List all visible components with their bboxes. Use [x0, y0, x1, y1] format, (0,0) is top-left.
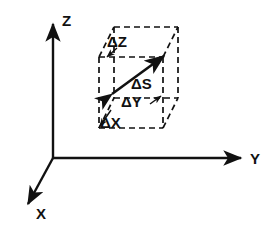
x-axis-line [28, 158, 53, 204]
cube-edge-depth-br [163, 98, 178, 128]
delta-x-label: ΔX [100, 114, 121, 131]
diagram-canvas: Z Y X ΔZ ΔS ΔY ΔX [0, 0, 271, 234]
y-axis-label: Y [250, 150, 260, 167]
delta-y-label: ΔY [121, 93, 142, 110]
delta-z-label: ΔZ [107, 33, 127, 50]
z-axis-label: Z [62, 12, 71, 29]
x-axis-label: X [36, 205, 46, 222]
delta-s-label: ΔS [131, 75, 152, 92]
coordinate-system-diagram: Z Y X ΔZ ΔS ΔY ΔX [0, 0, 271, 234]
cube-edge-depth-tr [163, 27, 178, 57]
axis-group [28, 24, 241, 204]
